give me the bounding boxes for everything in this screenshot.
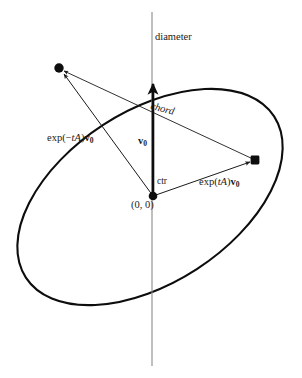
diagram-svg — [0, 0, 302, 378]
exp-pos-ta-v0-label: exp(tA)v0 — [199, 177, 240, 189]
exp-open-paren: exp( — [199, 176, 218, 187]
origin-label: (0, 0) — [131, 200, 154, 211]
v0-subscript: 0 — [143, 139, 147, 148]
diameter-label: diameter — [155, 32, 192, 43]
v-subscript: 0 — [236, 180, 240, 189]
chord-line — [64, 71, 253, 159]
exp-neg-ta-v0-label: exp(−tA)v0 — [47, 133, 93, 145]
v0-label: v0 — [138, 136, 147, 148]
exp-pos-endpoint — [251, 156, 260, 165]
exp-open-paren: exp( — [47, 132, 66, 143]
figure-canvas: diameter chord v0 ctr (0, 0) exp(−tA)v0 … — [0, 0, 302, 378]
exp-neg-endpoint — [54, 63, 63, 72]
ctr-label: ctr — [157, 177, 167, 187]
v-subscript: 0 — [90, 136, 94, 145]
